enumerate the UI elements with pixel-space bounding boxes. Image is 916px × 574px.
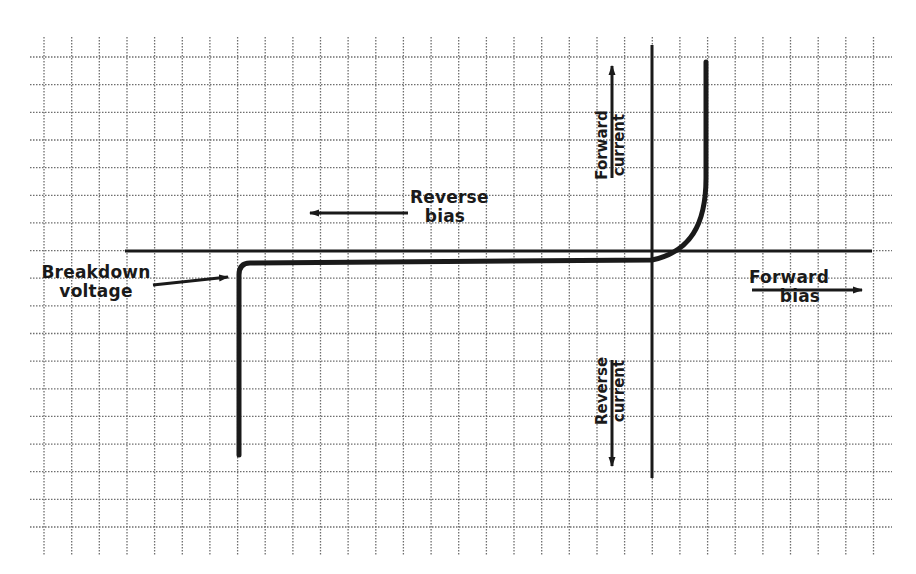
forward-current-label: Forward current [594,108,628,182]
forward-current-label-line2: current [611,108,628,182]
reverse-bias-label-line1: Reverse [410,188,480,207]
forward-current-label-line1: Forward [594,108,611,182]
diode-iv-curve [239,62,706,455]
breakdown-voltage-label-line1: Breakdown [40,263,152,282]
forward-bias-label-line2: bias [744,287,834,306]
reverse-current-label-line1: Reverse [594,354,611,428]
reverse-bias-label-line2: bias [410,207,480,226]
forward-bias-label: Forward bias [744,268,834,306]
reverse-bias-label: Reverse bias [410,188,480,226]
diode-characteristic-diagram: Reverse bias Breakdown voltage Forward b… [0,0,916,574]
reverse-current-label-line2: current [611,354,628,428]
forward-bias-label-line1: Forward [744,268,834,287]
breakdown-voltage-label: Breakdown voltage [40,263,152,301]
breakdown-arrow-icon [153,277,228,285]
breakdown-voltage-label-line2: voltage [40,282,152,301]
reverse-current-label: Reverse current [594,354,628,428]
